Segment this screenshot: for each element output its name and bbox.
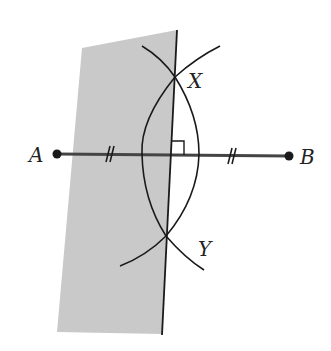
label-y: Y bbox=[198, 237, 213, 261]
right-angle-marker bbox=[171, 141, 184, 155]
point-b bbox=[285, 152, 294, 161]
label-x: X bbox=[186, 69, 203, 93]
label-a: A bbox=[27, 143, 43, 167]
label-b: B bbox=[299, 145, 315, 169]
segment-ab bbox=[57, 154, 289, 156]
shaded-plane bbox=[57, 30, 177, 334]
point-a bbox=[53, 150, 62, 159]
perpendicular-bisector-diagram: A B X Y bbox=[0, 0, 331, 351]
